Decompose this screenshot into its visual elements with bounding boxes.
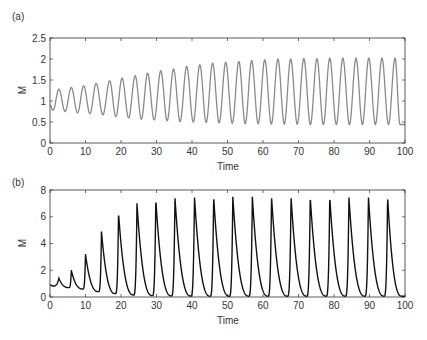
x-tick-label: 60 xyxy=(257,146,269,157)
x-tick-label: 80 xyxy=(328,300,340,311)
x-tick-label: 0 xyxy=(47,300,53,311)
x-tick-label: 10 xyxy=(80,146,92,157)
x-tick-label: 10 xyxy=(80,300,92,311)
y-tick-label: 1.5 xyxy=(32,75,46,86)
y-tick-label: 4 xyxy=(40,238,46,249)
panel-a-x-label: Time xyxy=(217,161,239,172)
figure: (a) 00.511.522.5 0102030405060708090100 … xyxy=(0,0,427,340)
panel-a-y-ticks: 00.511.522.5 xyxy=(32,33,405,149)
y-tick-label: 1 xyxy=(40,96,46,107)
x-tick-label: 70 xyxy=(293,146,305,157)
x-tick-label: 20 xyxy=(115,300,127,311)
panel-b-chart: (b) 02468 0102030405060708090100 M Time xyxy=(12,177,414,326)
x-tick-label: 100 xyxy=(397,146,414,157)
y-tick-label: 8 xyxy=(40,185,46,196)
panel-a-x-ticks: 0102030405060708090100 xyxy=(47,38,414,157)
y-tick-label: 2.5 xyxy=(32,33,46,44)
x-tick-label: 50 xyxy=(222,300,234,311)
x-tick-label: 90 xyxy=(364,146,376,157)
y-tick-label: 0 xyxy=(40,292,46,303)
panel-a-chart: (a) 00.511.522.5 0102030405060708090100 … xyxy=(12,11,414,172)
panel-a-label: (a) xyxy=(12,11,24,22)
panel-b-label: (b) xyxy=(12,177,24,188)
y-tick-label: 2 xyxy=(40,265,46,276)
x-tick-label: 20 xyxy=(115,146,127,157)
x-tick-label: 40 xyxy=(186,300,198,311)
panel-a-frame xyxy=(50,38,405,143)
x-tick-label: 30 xyxy=(151,300,163,311)
y-tick-label: 0 xyxy=(40,138,46,149)
panel-b-series-line xyxy=(50,197,405,297)
x-tick-label: 100 xyxy=(397,300,414,311)
x-tick-label: 50 xyxy=(222,146,234,157)
x-tick-label: 90 xyxy=(364,300,376,311)
panel-a-series-line xyxy=(50,58,405,124)
x-tick-label: 30 xyxy=(151,146,163,157)
x-tick-label: 40 xyxy=(186,146,198,157)
x-tick-label: 60 xyxy=(257,300,269,311)
y-tick-label: 6 xyxy=(40,211,46,222)
x-tick-label: 70 xyxy=(293,300,305,311)
panel-a-y-label: M xyxy=(17,86,28,94)
panel-b-x-label: Time xyxy=(217,315,239,326)
y-tick-label: 0.5 xyxy=(32,117,46,128)
x-tick-label: 0 xyxy=(47,146,53,157)
x-tick-label: 80 xyxy=(328,146,340,157)
panel-b-y-label: M xyxy=(17,239,28,247)
y-tick-label: 2 xyxy=(40,54,46,65)
